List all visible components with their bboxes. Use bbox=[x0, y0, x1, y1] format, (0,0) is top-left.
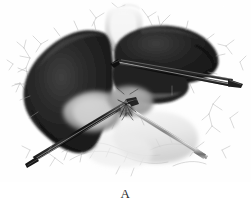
print-grain bbox=[0, 0, 251, 182]
surgical-illustration bbox=[0, 0, 251, 208]
figure-caption-label: A bbox=[0, 186, 251, 202]
figure-panel: A bbox=[0, 0, 251, 208]
